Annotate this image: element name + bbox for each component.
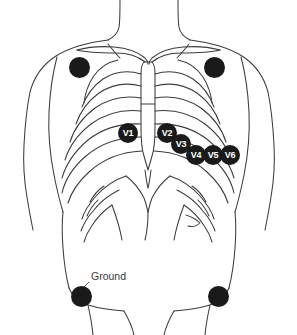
electrode-v5-label: V5 bbox=[208, 151, 219, 160]
electrode-v4-label: V4 bbox=[191, 151, 202, 160]
right-rib-10-costal bbox=[184, 205, 212, 242]
right-arm-inner-contour bbox=[235, 57, 249, 212]
left-rib-9-costal bbox=[81, 190, 119, 231]
neck-left-contour bbox=[108, 0, 120, 40]
right-cartilage-detail-2 bbox=[198, 200, 209, 216]
left-cartilage-detail-2 bbox=[87, 200, 98, 216]
neck-right-contour bbox=[178, 0, 190, 40]
left-rib-7 bbox=[68, 151, 142, 203]
ecg-electrode-placement-diagram: V1 V2 V3 V4 V5 V6 Ground bbox=[0, 0, 297, 335]
electrode-v6-label: V6 bbox=[225, 151, 236, 160]
left-rib-10-costal bbox=[84, 205, 112, 242]
left-flank-contour bbox=[62, 212, 69, 288]
right-costal-arch-inner bbox=[148, 176, 170, 212]
left-rib-2-upper bbox=[82, 72, 141, 107]
left-cartilage-detail-1 bbox=[90, 186, 104, 202]
electrode-v1-label: V1 bbox=[123, 129, 134, 138]
right-inner-thigh-contour bbox=[164, 311, 174, 335]
right-rib-2-upper bbox=[155, 72, 214, 107]
left-acromion-detail bbox=[108, 44, 120, 58]
electrode-limb-left-leg[interactable] bbox=[208, 286, 229, 307]
right-abdominal-contour bbox=[174, 205, 184, 240]
electrode-v3-label: V3 bbox=[176, 140, 187, 149]
left-inner-thigh-contour bbox=[124, 311, 134, 335]
right-shoulder-arm-outer-contour bbox=[190, 40, 274, 230]
electrode-limb-right-leg-ground[interactable] bbox=[71, 286, 92, 307]
left-costal-arch-inner bbox=[126, 176, 148, 212]
right-rib-9-costal bbox=[177, 190, 215, 231]
electrode-limb-left-arm[interactable] bbox=[204, 57, 225, 78]
right-groin-crease bbox=[205, 305, 210, 335]
right-cartilage-detail-1 bbox=[192, 186, 206, 202]
ground-annotation-label: Ground bbox=[91, 270, 126, 282]
electrode-limb-right-arm[interactable] bbox=[69, 57, 90, 78]
left-rib-2 bbox=[76, 84, 141, 124]
upper-abdomen-midline bbox=[145, 212, 148, 240]
electrode-v2-label: V2 bbox=[162, 129, 173, 138]
left-abdominal-contour bbox=[112, 205, 122, 240]
right-acromion-detail bbox=[177, 44, 189, 58]
electrode-v1[interactable]: V1 bbox=[118, 123, 138, 143]
left-arm-inner-contour bbox=[49, 57, 63, 212]
electrode-v6[interactable]: V6 bbox=[220, 145, 240, 165]
sternum bbox=[141, 62, 155, 170]
right-rib-2 bbox=[155, 84, 220, 124]
torso-anatomy-illustration bbox=[0, 0, 297, 335]
left-groin-crease bbox=[88, 305, 93, 335]
left-rib-6 bbox=[62, 137, 141, 193]
right-flank-contour bbox=[229, 212, 236, 288]
xiphoid-process bbox=[145, 170, 151, 188]
body-outline-group bbox=[24, 0, 275, 335]
